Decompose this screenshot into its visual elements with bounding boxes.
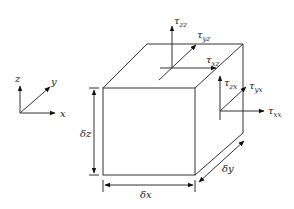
dz-label: δz xyxy=(80,128,92,139)
dx-dimension: δx xyxy=(103,180,195,200)
coordinate-axes: z x y xyxy=(14,73,66,119)
dy-label: δy xyxy=(222,163,234,174)
top-face-stresses: τzz τyz τxz xyxy=(159,15,219,80)
dz-dimension: δz xyxy=(80,88,99,175)
stress-element-diagram: z x y δz δx δy τzz τyz τxz τzx xyxy=(0,0,294,209)
dy-dimension: δy xyxy=(199,141,244,182)
dx-label: δx xyxy=(140,189,152,200)
tau-xx-label: τxx xyxy=(268,105,281,119)
tau-zx-label: τzx xyxy=(224,77,237,91)
tau-xz-label: τxz xyxy=(206,54,219,68)
cube-front-face xyxy=(103,88,195,175)
x-axis-label: x xyxy=(60,108,66,119)
right-face-stresses: τzx τyx τxx xyxy=(220,76,281,120)
y-axis-label: y xyxy=(50,76,57,87)
tau-zz-label: τzz xyxy=(174,15,187,29)
tau-yz-arrow xyxy=(159,45,196,80)
z-axis-label: z xyxy=(14,73,21,84)
tau-yx-label: τyx xyxy=(249,80,263,94)
cube-top-face xyxy=(103,44,243,88)
tau-yz-label: τyz xyxy=(197,29,211,43)
y-axis-arrow xyxy=(20,87,50,113)
